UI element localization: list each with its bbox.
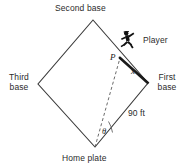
label-base-path-distance: 90 ft [128, 108, 145, 118]
label-point-p: P [110, 52, 116, 62]
label-third-base: Third base [2, 72, 36, 92]
diagram-canvas: Second base Third base First base Home p… [0, 0, 186, 168]
label-angle-theta: θ [102, 126, 106, 136]
label-first-base: First base [150, 72, 184, 92]
label-second-base: Second base [55, 3, 106, 13]
running-player-icon [121, 31, 135, 49]
label-segment-x: x [131, 66, 135, 76]
point-p-marker [119, 57, 121, 59]
dashed-line-home-to-p [95, 58, 120, 147]
diamond-outline [38, 20, 148, 147]
label-home-plate: Home plate [62, 153, 106, 163]
label-player: Player [143, 35, 168, 45]
